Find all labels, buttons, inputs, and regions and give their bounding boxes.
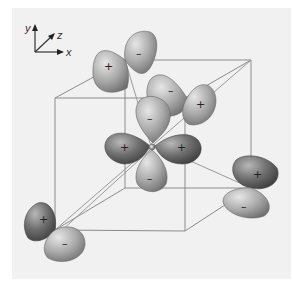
orbital-group-right: + – (223, 156, 278, 218)
x-arrow-icon (57, 49, 64, 55)
lobe-negative-top (136, 96, 170, 143)
sign-label: – (62, 237, 68, 250)
sign-label: + (253, 168, 262, 181)
y-arrow-icon (32, 24, 38, 31)
z-axis-label: z (56, 29, 63, 41)
sign-label: – (168, 84, 174, 97)
central-atom (149, 144, 155, 150)
sign-label: – (136, 47, 142, 60)
sign-label: + (196, 98, 205, 111)
orbital-group-top-back: + – (93, 31, 157, 92)
sign-label: + (177, 141, 186, 154)
sign-label: – (147, 172, 153, 185)
sign-label: + (120, 141, 129, 154)
sign-label: – (241, 200, 247, 213)
orbital-diagram: y x z + – – + (0, 0, 293, 287)
sign-label: – (147, 112, 153, 125)
axes-indicator: y x z (24, 22, 72, 58)
x-axis-label: x (65, 46, 72, 58)
y-axis-label: y (24, 22, 32, 34)
sign-label: + (39, 213, 48, 226)
sign-label: + (104, 60, 113, 73)
